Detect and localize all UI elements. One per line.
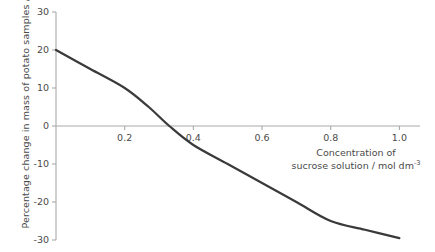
y-axis: 3020100-10-20-30	[33, 6, 56, 245]
chart-figure: 3020100-10-20-30 0.20.40.60.81.0 Percent…	[0, 0, 435, 252]
x-axis-label-exponent: -3	[414, 159, 421, 167]
x-tick-label: 0.6	[254, 132, 269, 143]
y-tick-label: -20	[33, 196, 49, 207]
y-tick-label: 0	[43, 120, 49, 131]
data-curve-path	[56, 50, 399, 238]
y-axis-label: Percentage change in mass of potato samp…	[20, 0, 31, 229]
data-series-line	[56, 50, 399, 238]
y-tick-label: 30	[37, 6, 49, 17]
x-axis-label: Concentration of sucrose solution / mol …	[278, 146, 434, 172]
y-tick-label: 10	[37, 82, 49, 93]
x-axis-label-line-1: Concentration of	[278, 146, 434, 159]
y-tick-label: -30	[33, 234, 49, 245]
x-tick-label: 0.2	[117, 132, 132, 143]
y-tick-label: 20	[37, 44, 49, 55]
x-axis-label-line-2: sucrose solution / mol dm-3	[278, 159, 434, 172]
x-tick-label: 0.8	[323, 132, 338, 143]
x-axis-label-units: sucrose solution / mol dm	[292, 160, 414, 171]
line-chart-plot: 3020100-10-20-30 0.20.40.60.81.0	[0, 0, 435, 252]
x-axis: 0.20.40.60.81.0	[56, 126, 420, 143]
y-tick-label: -10	[33, 158, 49, 169]
x-tick-label: 1.0	[392, 132, 407, 143]
